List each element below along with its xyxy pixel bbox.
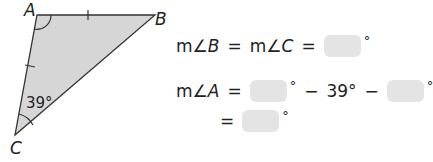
degree-symbol: ° bbox=[427, 78, 433, 93]
triangle-abc bbox=[15, 15, 155, 135]
answer-box-angle-b-sub[interactable] bbox=[387, 80, 424, 102]
equals-sign: = bbox=[227, 36, 241, 56]
vertex-label-b: B bbox=[155, 9, 167, 29]
triangle-figure bbox=[0, 0, 180, 162]
answer-box-total[interactable] bbox=[250, 80, 287, 102]
equals-sign: = bbox=[301, 36, 315, 56]
minus-sign: − bbox=[304, 81, 318, 101]
degree-symbol: ° bbox=[290, 78, 297, 93]
given-angle-c: 39° bbox=[326, 81, 356, 101]
angle-c-label: 39° bbox=[26, 94, 53, 112]
equals-sign: = bbox=[227, 81, 241, 101]
m-angle-prefix: m∠ bbox=[250, 36, 282, 56]
degree-symbol: ° bbox=[282, 108, 289, 123]
degree-symbol: ° bbox=[364, 33, 371, 48]
equals-sign: = bbox=[220, 111, 234, 131]
vertex-label-a: A bbox=[24, 0, 36, 20]
answer-box-angle-a[interactable] bbox=[242, 110, 279, 132]
var-a: A bbox=[208, 81, 220, 101]
m-angle-prefix: m∠ bbox=[176, 81, 208, 101]
minus-sign: − bbox=[365, 81, 379, 101]
equation-line-3: = ° bbox=[220, 110, 289, 132]
var-c: C bbox=[282, 36, 294, 56]
m-angle-prefix: m∠ bbox=[176, 36, 208, 56]
var-b: B bbox=[208, 36, 220, 56]
equation-line-1: m∠B = m∠C = ° bbox=[176, 35, 370, 57]
equation-line-2: m∠A = ° − 39° − ° bbox=[176, 80, 433, 102]
vertex-label-c: C bbox=[10, 138, 22, 158]
answer-box-angle-b[interactable] bbox=[324, 35, 361, 57]
